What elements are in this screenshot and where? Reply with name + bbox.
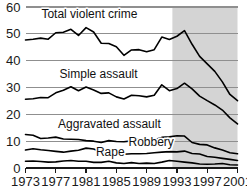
series-label-robbery: Robbery [128, 135, 173, 149]
x-tick-label-2001: 2001 [223, 174, 247, 189]
x-tick-label-1977: 1977 [41, 174, 70, 189]
x-tick-label-1981: 1981 [72, 174, 101, 189]
y-tick-label-60: 60 [6, 0, 20, 15]
x-tick-label-1989: 1989 [132, 174, 161, 189]
chart-canvas: 0102030405060 19731977198119851989199319… [0, 0, 247, 193]
series-annotation-robbery: RobberyRobbery [128, 135, 173, 149]
x-tick-label-group: 19731977198119851989199319972001 [11, 174, 247, 189]
series-label-total-violent-crime: Total violent crime [41, 7, 137, 21]
y-tick-label-20: 20 [6, 107, 20, 122]
series-annotation-simple-assault: Simple assaultSimple assault [60, 67, 139, 81]
x-tickmark-group [26, 168, 238, 173]
x-tick-label-1997: 1997 [193, 174, 222, 189]
violent-crime-victimization-chart: 0102030405060 19731977198119851989199319… [0, 0, 247, 193]
series-label-simple-assault: Simple assault [60, 67, 139, 81]
y-tick-label-50: 50 [6, 26, 20, 41]
y-tick-label-group: 0102030405060 [6, 0, 20, 176]
series-annotation-total-violent-crime: Total violent crimeTotal violent crime [41, 7, 137, 21]
axis-group [26, 168, 238, 173]
series-label-group: Total violent crimeTotal violent crimeSi… [41, 7, 173, 159]
x-tick-label-1993: 1993 [162, 174, 191, 189]
x-tick-label-1985: 1985 [102, 174, 131, 189]
series-annotation-rape: RapeRape [96, 145, 125, 159]
series-label-aggravated-assault: Aggravated assault [58, 117, 161, 131]
x-tick-label-1973: 1973 [11, 174, 40, 189]
series-label-rape: Rape [96, 145, 125, 159]
series-annotation-aggravated-assault: Aggravated assaultAggravated assault [58, 117, 161, 131]
y-tick-label-40: 40 [6, 53, 20, 68]
y-tick-label-10: 10 [6, 134, 20, 149]
y-tick-label-30: 30 [6, 80, 20, 95]
